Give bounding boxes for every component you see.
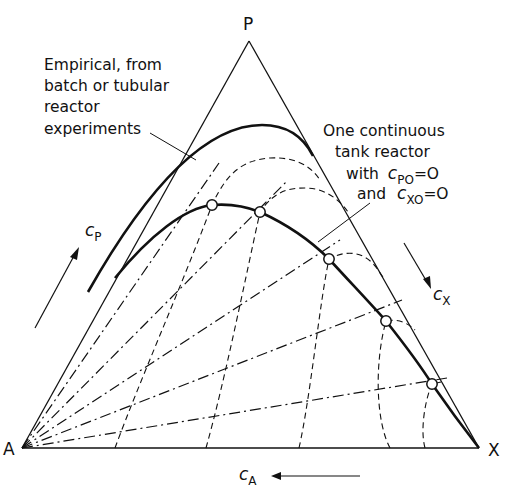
- axis-label-cx: cX: [433, 284, 451, 308]
- dashed-trajectories: [115, 158, 441, 448]
- svg-text:One continuous: One continuous: [323, 122, 445, 140]
- arrow-cp: [35, 247, 79, 328]
- empirical-annotation: Empirical, from batch or tubular reactor…: [44, 56, 170, 138]
- cstr-annotation: One continuous tank reactor with cPO=O a…: [323, 122, 449, 207]
- vertex-label-a: A: [3, 439, 15, 459]
- point-marker: [255, 207, 265, 217]
- svg-text:with cPO=O: with cPO=O: [346, 163, 439, 187]
- vertex-label-x: X: [488, 440, 500, 460]
- empirical-leader-line: [150, 133, 196, 160]
- cstr-curve: [115, 205, 479, 448]
- svg-text:and cXO=O: and cXO=O: [357, 183, 449, 207]
- arrow-cx: [404, 243, 431, 289]
- axis-label-ca: cA: [239, 464, 257, 488]
- vertex-label-p: P: [243, 14, 253, 34]
- cstr-marked-points: [207, 200, 437, 389]
- svg-text:reactor: reactor: [44, 98, 100, 116]
- point-marker: [427, 379, 437, 389]
- ternary-diagram: P A X: [0, 0, 507, 498]
- axis-label-cp: cP: [85, 220, 102, 244]
- point-marker: [381, 316, 391, 326]
- point-marker: [324, 254, 334, 264]
- svg-text:experiments: experiments: [44, 120, 141, 138]
- svg-text:tank reactor: tank reactor: [335, 143, 430, 161]
- svg-text:Empirical, from: Empirical, from: [44, 56, 162, 74]
- arrow-ca: [271, 472, 360, 480]
- svg-text:batch or tubular: batch or tubular: [44, 77, 170, 95]
- point-marker: [207, 200, 217, 210]
